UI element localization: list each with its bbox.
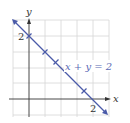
y-axis-arrow-icon [27,18,31,24]
x-tick-label: 2 [90,103,96,114]
y-axis-label: y [25,6,32,17]
x-axis-arrow-icon [105,97,111,101]
y-tick-label: 2 [18,31,24,42]
graph: x y 2 2 x + y = 2 [0,0,130,123]
x-axis-label: x [113,93,119,104]
equation-label: x + y = 2 [65,61,112,72]
